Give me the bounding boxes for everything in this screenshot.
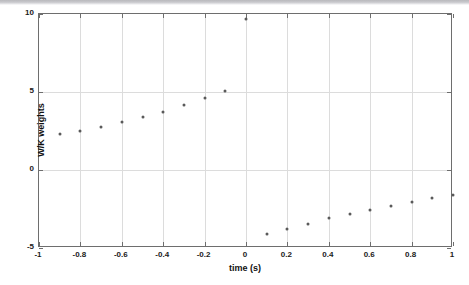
data-point [327, 217, 330, 220]
data-point [389, 204, 392, 207]
x-tick-label: -1 [34, 250, 41, 260]
x-tick-mark [80, 242, 81, 246]
x-tick-mark [122, 242, 123, 246]
x-tick-label: -0.6 [114, 250, 128, 260]
data-point [100, 126, 103, 129]
x-tick-mark [287, 242, 288, 246]
data-point [431, 197, 434, 200]
x-tick-mark-top [412, 14, 413, 18]
gridline-vertical [122, 14, 123, 246]
data-point [245, 18, 248, 21]
y-tick-mark [39, 248, 43, 249]
data-point [307, 222, 310, 225]
x-tick-mark-top [205, 14, 206, 18]
x-tick-mark-top [329, 14, 330, 18]
gridline-vertical [329, 14, 330, 246]
y-tick-label: -5 [27, 242, 34, 252]
data-point [410, 200, 413, 203]
data-point [58, 133, 61, 136]
data-point [182, 104, 185, 107]
data-point [452, 193, 455, 196]
plot-area [38, 13, 452, 247]
data-point [224, 90, 227, 93]
x-axis-label: time (s) [229, 263, 261, 273]
data-point [265, 232, 268, 235]
data-point [369, 208, 372, 211]
y-tick-mark-right [447, 170, 451, 171]
x-tick-label: -0.2 [197, 250, 211, 260]
x-tick-mark [329, 242, 330, 246]
data-point [348, 213, 351, 216]
data-point [286, 228, 289, 231]
x-tick-mark-top [453, 14, 454, 18]
gridline-horizontal [39, 170, 451, 171]
data-point [141, 115, 144, 118]
y-tick-mark-right [447, 248, 451, 249]
y-axis-label: W/K weights [36, 103, 46, 157]
screenshot-page: -1-0.8-0.6-0.4-0.200.20.40.60.81 -50510 … [0, 0, 469, 285]
data-point [162, 110, 165, 113]
y-tick-mark [39, 170, 43, 171]
x-tick-mark-top [80, 14, 81, 18]
x-tick-mark [163, 242, 164, 246]
x-tick-label: 0.4 [322, 250, 333, 260]
y-tick-mark-right [447, 14, 451, 15]
data-point [120, 121, 123, 124]
x-tick-mark-top [163, 14, 164, 18]
x-tick-mark-top [370, 14, 371, 18]
x-tick-label: 1 [450, 250, 454, 260]
data-point [79, 130, 82, 133]
gridline-horizontal [39, 92, 451, 93]
x-tick-mark-top [287, 14, 288, 18]
x-tick-label: -0.4 [155, 250, 169, 260]
x-tick-mark [370, 242, 371, 246]
x-tick-label: 0 [243, 250, 247, 260]
x-tick-mark [412, 242, 413, 246]
x-tick-mark-top [122, 14, 123, 18]
x-tick-mark [205, 242, 206, 246]
y-tick-mark [39, 92, 43, 93]
y-tick-mark-right [447, 92, 451, 93]
x-tick-label: 0.6 [364, 250, 375, 260]
x-tick-mark [246, 242, 247, 246]
y-tick-mark [39, 14, 43, 15]
gridline-vertical [246, 14, 247, 246]
y-tick-label: 5 [30, 86, 34, 96]
y-tick-label: 0 [30, 164, 34, 174]
x-tick-label: 0.2 [281, 250, 292, 260]
gridline-vertical [163, 14, 164, 246]
scatter-plot-figure: -1-0.8-0.6-0.4-0.200.20.40.60.81 -50510 … [0, 0, 469, 285]
data-point [203, 97, 206, 100]
x-tick-label: -0.8 [72, 250, 86, 260]
x-tick-mark [453, 242, 454, 246]
x-tick-mark [39, 242, 40, 246]
gridline-vertical [412, 14, 413, 246]
gridline-vertical [205, 14, 206, 246]
x-tick-label: 0.8 [405, 250, 416, 260]
gridline-vertical [287, 14, 288, 246]
y-tick-label: 10 [25, 8, 34, 18]
